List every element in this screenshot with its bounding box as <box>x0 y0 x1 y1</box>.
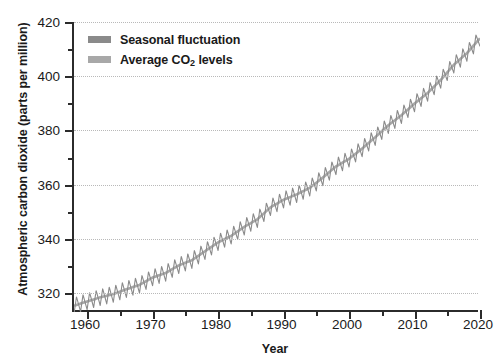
y-tick-label: 320 <box>0 286 60 301</box>
y-tick-major <box>65 22 74 24</box>
chart-legend: Seasonal fluctuationAverage CO2 levels <box>88 31 240 68</box>
legend-item: Seasonal fluctuation <box>88 31 240 48</box>
y-axis-title: Atmospheric carbon dioxide (parts per mi… <box>16 0 30 319</box>
x-tick-label: 1960 <box>50 317 120 332</box>
legend-swatch <box>88 56 111 63</box>
gridline <box>74 76 478 77</box>
x-tick-minor <box>251 310 253 316</box>
y-tick-label: 400 <box>0 69 60 84</box>
y-tick-major <box>65 239 74 241</box>
legend-swatch <box>88 36 111 43</box>
gridline <box>74 239 478 240</box>
legend-label: Seasonal fluctuation <box>120 33 240 47</box>
x-tick-label: 2020 <box>443 317 502 332</box>
x-tick-label: 1990 <box>247 317 317 332</box>
y-tick-major <box>65 185 74 187</box>
x-tick-label: 1970 <box>116 317 186 332</box>
x-tick-label: 2000 <box>312 317 382 332</box>
y-tick-label: 340 <box>0 231 60 246</box>
x-tick-minor <box>185 310 187 316</box>
x-tick-label: 1980 <box>181 317 251 332</box>
legend-label: Average CO2 levels <box>120 53 233 67</box>
y-tick-major <box>65 130 74 132</box>
x-tick-label: 2010 <box>378 317 448 332</box>
average-co2-line <box>74 38 480 306</box>
legend-item: Average CO2 levels <box>88 51 240 68</box>
x-tick-minor <box>382 310 384 316</box>
y-tick-label: 420 <box>0 15 60 30</box>
x-tick-minor <box>316 310 318 316</box>
y-tick-minor <box>68 103 74 105</box>
x-tick-minor <box>120 310 122 316</box>
gridline <box>74 130 478 131</box>
y-tick-label: 380 <box>0 123 60 138</box>
gridline <box>74 22 478 23</box>
y-tick-major <box>65 76 74 78</box>
gridline <box>74 293 478 294</box>
y-tick-minor <box>68 266 74 268</box>
co2-chart-figure: Atmospheric carbon dioxide (parts per mi… <box>0 0 502 363</box>
gridline <box>74 185 478 186</box>
y-tick-minor <box>68 212 74 214</box>
y-tick-label: 360 <box>0 177 60 192</box>
y-tick-major <box>65 293 74 295</box>
x-axis-title: Year <box>72 342 478 356</box>
y-tick-minor <box>68 158 74 160</box>
y-tick-minor <box>68 49 74 51</box>
x-tick-minor <box>447 310 449 316</box>
